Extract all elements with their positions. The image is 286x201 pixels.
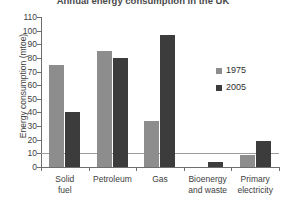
x-axis-label-line: fuel [41,185,89,196]
bar-1975-gas [144,121,159,167]
x-tick-mark [231,167,232,171]
x-axis-label-bioenergy-and-waste: Bioenergyand waste [184,174,232,195]
legend-item-1975: 1975 [216,62,276,79]
bar-1975-solid-fuel [49,65,64,167]
x-axis-label-line: Petroleum [89,174,137,185]
x-axis-label-gas: Gas [136,174,184,185]
y-tick-label: 80 [28,54,37,63]
bar-2005-petroleum [113,58,128,167]
y-tick-label: 100 [23,26,37,35]
y-tick-label: 30 [28,122,37,131]
x-axis-label-line: Bioenergy [184,174,232,185]
x-axis-label-line: Primary [231,174,279,185]
y-tick-label: 40 [28,108,37,117]
chart-title: Annual energy consumption in the UK [0,0,286,7]
x-tick-mark [184,167,185,171]
y-tick-label: 90 [28,40,37,49]
legend-item-2005: 2005 [216,79,276,96]
y-tick-label: 110 [23,13,37,22]
x-tick-mark [41,167,42,171]
x-axis-label-primary-electricity: Primaryelectricity [231,174,279,195]
x-axis-label-petroleum: Petroleum [89,174,137,185]
bar-group [89,17,137,167]
legend-label: 2005 [226,83,246,92]
bar-2005-solid-fuel [65,112,80,167]
y-tick-label: 60 [28,81,37,90]
x-tick-mark [136,167,137,171]
bar-2005-primary-electricity [256,141,271,167]
x-axis-label-line: and waste [184,185,232,196]
bar-group [41,17,89,167]
bar-group [136,17,184,167]
x-tick-mark [89,167,90,171]
legend-swatch-icon [216,85,222,91]
x-axis-label-solid-fuel: Solidfuel [41,174,89,195]
bar-1975-petroleum [97,51,112,167]
bar-chart: Annual energy consumption in the UK Ener… [0,0,286,201]
x-axis-label-line: Solid [41,174,89,185]
y-tick-label: 70 [28,67,37,76]
y-tick-label: 50 [28,95,37,104]
bar-2005-gas [160,35,175,167]
x-tick-mark [279,167,280,171]
chart-legend: 19752005 [216,62,276,96]
y-tick-label: 10 [28,149,37,158]
legend-label: 1975 [226,66,246,75]
x-axis-label-line: electricity [231,185,279,196]
bar-2005-bioenergy-and-waste [208,162,223,167]
bar-1975-primary-electricity [240,155,255,167]
legend-swatch-icon [216,68,222,74]
x-axis-label-line: Gas [136,174,184,185]
x-axis-line [41,167,279,168]
y-tick-label: 20 [28,135,37,144]
